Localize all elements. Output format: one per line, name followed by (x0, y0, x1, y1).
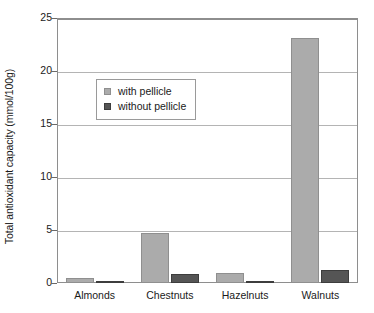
bar (246, 281, 274, 283)
bar-chart: Total antioxidant capacity (mmol/100g) 0… (0, 0, 374, 313)
bar (291, 38, 319, 283)
legend-item-with-pellicle: with pellicle (104, 84, 186, 99)
bar (321, 270, 349, 283)
bars-layer (57, 18, 358, 283)
x-axis-category-label: Walnuts (260, 290, 374, 301)
bar (66, 278, 94, 283)
bar (96, 281, 124, 283)
legend-swatch-icon-without-pellicle (104, 103, 111, 110)
legend-label-with-pellicle: with pellicle (118, 86, 172, 97)
bar (171, 274, 199, 283)
bar (216, 273, 244, 283)
legend-swatch-icon-with-pellicle (104, 88, 111, 95)
chart-legend: with pellicle without pellicle (96, 79, 196, 120)
bar (141, 233, 169, 283)
legend-label-without-pellicle: without pellicle (118, 101, 186, 112)
y-axis-title: Total antioxidant capacity (mmol/100g) (0, 0, 18, 313)
legend-item-without-pellicle: without pellicle (104, 99, 186, 114)
